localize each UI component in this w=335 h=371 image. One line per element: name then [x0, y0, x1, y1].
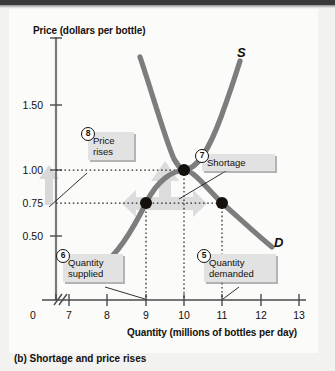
x-tick-label-10: 10 [174, 309, 194, 321]
quantity-supplied-point-marker [140, 197, 152, 209]
x-tick-label-13: 13 [289, 309, 309, 321]
y-tick-label-0-50: 0.50 [13, 230, 43, 242]
annotation-badge-6[interactable]: 6 [56, 249, 70, 263]
x-tick-label-12: 12 [251, 309, 271, 321]
annotation-badge-8[interactable]: 8 [81, 127, 95, 141]
x-tick-label-0: 0 [23, 309, 43, 321]
callout-price-rises-line1: Price [93, 135, 129, 146]
x-tick-label-7: 7 [59, 309, 79, 321]
y-tick-label-0-75: 0.75 [13, 197, 43, 209]
x-tick-label-11: 11 [212, 309, 232, 321]
callout-quantity-demanded-line1: Quantity [209, 257, 271, 268]
annotation-badge-5[interactable]: 5 [197, 249, 211, 263]
y-tick-label-1-00: 1.00 [13, 164, 43, 176]
quantity-demanded-point-marker [216, 197, 228, 209]
figure-container: Price (dollars per bottle) Quantity (mil… [0, 0, 335, 371]
x-axis-title: Quantity (millions of bottles per day) [127, 327, 297, 338]
callout-shortage[interactable]: Shortage [202, 154, 275, 171]
callout-quantity-supplied-line1: Quantity [68, 257, 118, 268]
annotation-badge-7[interactable]: 7 [195, 149, 209, 163]
figure-caption: (b) Shortage and price rises [14, 353, 146, 364]
page-top-band-shadow [0, 5, 335, 8]
callout-quantity-demanded[interactable]: Quantity demanded [204, 254, 276, 282]
chart-plot-area [9, 9, 318, 353]
callout-quantity-demanded-line2: demanded [209, 268, 271, 279]
equilibrium-point-marker [178, 164, 190, 176]
chart-panel: Price (dollars per bottle) Quantity (mil… [9, 9, 318, 353]
callout-quantity-supplied-line2: supplied [68, 268, 118, 279]
x-tick-label-8: 8 [97, 309, 117, 321]
supply-curve-label: S [237, 45, 246, 60]
callout-price-rises[interactable]: Price rises [88, 132, 134, 160]
callout-quantity-supplied[interactable]: Quantity supplied [63, 254, 123, 282]
x-tick-label-9: 9 [136, 309, 156, 321]
y-axis-title: Price (dollars per bottle) [33, 25, 145, 36]
demand-curve-label: D [274, 235, 283, 250]
y-tick-label-1-50: 1.50 [13, 99, 43, 111]
callout-shortage-line1: Shortage [207, 157, 270, 168]
callout-price-rises-line2: rises [93, 146, 129, 157]
